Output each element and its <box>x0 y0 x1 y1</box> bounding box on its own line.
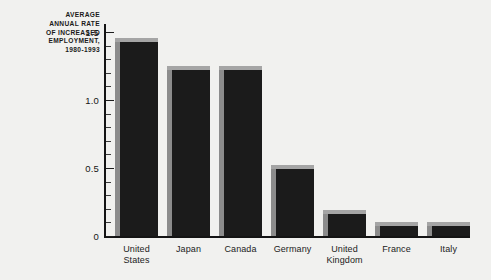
y-tick-minor <box>106 154 111 155</box>
y-tick-minor <box>106 141 111 142</box>
y-axis-label: 0.5 <box>85 163 99 174</box>
bar <box>219 66 262 236</box>
y-tick-minor <box>106 114 111 115</box>
y-tick-minor <box>106 182 111 183</box>
y-tick-major <box>106 32 114 33</box>
bar <box>271 165 314 236</box>
plot-area: 00.51.01.5 UnitedStatesJapanCanadaGerman… <box>104 24 470 238</box>
y-tick-major <box>106 236 114 237</box>
bar-front-face <box>432 226 470 236</box>
y-axis-label: 1.5 <box>85 27 99 38</box>
y-tick-minor <box>106 59 111 60</box>
chart-title-line: 1980-1993 <box>8 46 100 55</box>
bar-front-face <box>120 42 158 236</box>
bar-front-face <box>276 169 314 236</box>
y-tick-minor <box>106 127 111 128</box>
bar-chart: AVERAGE ANNUAL RATE OF INCREASED EMPLOYM… <box>0 0 491 280</box>
bar <box>115 38 158 236</box>
y-tick-major <box>106 168 114 169</box>
bar-front-face <box>380 226 418 236</box>
bar <box>167 66 210 236</box>
bar-front-face <box>224 70 262 236</box>
y-axis-label: 0 <box>94 231 99 242</box>
category-label: Italy <box>418 244 479 255</box>
y-tick-minor <box>106 46 111 47</box>
y-tick-minor <box>106 222 111 223</box>
bar-front-face <box>328 214 366 236</box>
y-tick-minor <box>106 73 111 74</box>
bar-front-face <box>172 70 210 236</box>
category-label-line: Kingdom <box>314 255 375 266</box>
y-axis-line <box>104 24 106 238</box>
bar <box>427 222 470 236</box>
y-axis-label: 1.0 <box>85 95 99 106</box>
chart-title-line: EMPLOYMENT, <box>8 37 100 46</box>
y-tick-minor <box>106 195 111 196</box>
bar <box>323 210 366 236</box>
category-label-line: Italy <box>418 244 479 255</box>
y-tick-minor <box>106 86 111 87</box>
bar <box>375 222 418 236</box>
y-tick-major <box>106 100 114 101</box>
chart-title-line: AVERAGE <box>8 11 100 20</box>
y-tick-minor <box>106 209 111 210</box>
category-label-line: States <box>106 255 167 266</box>
x-axis-line <box>104 236 470 238</box>
